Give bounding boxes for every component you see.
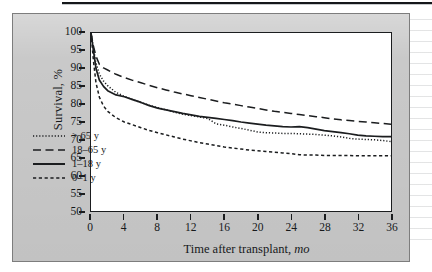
legend-item: 18–65 y [33, 144, 106, 157]
legend-item: > 65 y [33, 130, 106, 143]
series-line-4 [91, 33, 391, 156]
x-tick-label: 12 [176, 222, 206, 234]
x-tick-mark [324, 214, 326, 220]
x-tick-mark [391, 214, 393, 220]
x-tick-label: 4 [109, 222, 139, 234]
x-tick-mark [223, 214, 225, 220]
y-tick-mark [79, 103, 85, 105]
x-tick-mark [156, 214, 158, 220]
series-line-3 [91, 33, 391, 137]
plot-area [90, 32, 392, 212]
legend-swatch-icon [33, 132, 65, 140]
x-tick-label: 20 [243, 222, 273, 234]
x-tick-label: 32 [343, 222, 373, 234]
survival-curves-svg [91, 33, 391, 211]
y-tick-mark [79, 67, 85, 69]
legend-label: > 65 y [72, 131, 99, 142]
x-tick-mark [358, 214, 360, 220]
page-top-rule-shadow [62, 4, 432, 5]
x-axis-label: Time after transplant, mo [90, 242, 403, 257]
x-tick-mark [257, 214, 259, 220]
legend-swatch-icon [33, 174, 65, 182]
legend-label: 18–65 y [72, 145, 106, 156]
x-tick-label: 28 [310, 222, 340, 234]
x-tick-label: 8 [142, 222, 172, 234]
x-tick-label: 16 [209, 222, 239, 234]
x-tick-mark [291, 214, 293, 220]
figure-panel: Survival, % 50556065707580859095100 0481… [12, 13, 410, 262]
y-tick-mark [79, 121, 85, 123]
x-tick-label: 36 [377, 222, 407, 234]
y-tick-mark [79, 49, 85, 51]
legend-item: 0–1 y [33, 172, 106, 185]
x-axis-tick-layer: 04812162024283236 [90, 214, 392, 238]
y-tick-mark [79, 85, 85, 87]
y-tick-mark [79, 193, 85, 195]
x-tick-mark [190, 214, 192, 220]
legend: > 65 y18–65 y1–18 y0–1 y [33, 130, 106, 186]
legend-item: 1–18 y [33, 158, 106, 171]
y-tick-mark [79, 31, 85, 33]
x-axis-label-text: Time after transplant, [184, 242, 292, 256]
legend-label: 1–18 y [72, 159, 101, 170]
x-tick-label: 0 [75, 222, 105, 234]
x-tick-mark [89, 214, 91, 220]
y-tick-mark [79, 211, 85, 213]
series-line-2 [91, 33, 391, 124]
x-tick-mark [123, 214, 125, 220]
legend-swatch-icon [33, 160, 65, 168]
legend-swatch-icon [33, 146, 65, 154]
adjacent-text-column-artifact [410, 14, 432, 246]
legend-label: 0–1 y [72, 173, 96, 184]
x-tick-label: 24 [276, 222, 306, 234]
x-axis-label-unit: mo [294, 242, 309, 256]
